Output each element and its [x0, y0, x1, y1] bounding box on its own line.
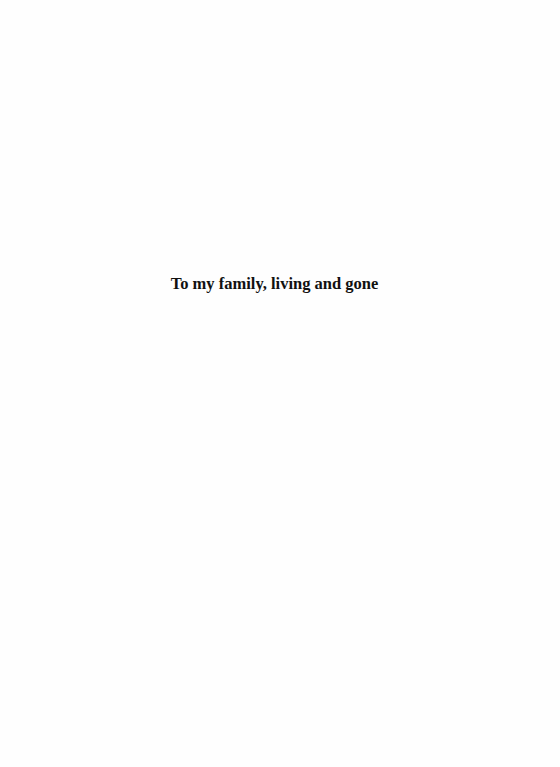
document-page: To my family, living and gone — [0, 0, 560, 767]
dedication-text: To my family, living and gone — [0, 274, 549, 294]
